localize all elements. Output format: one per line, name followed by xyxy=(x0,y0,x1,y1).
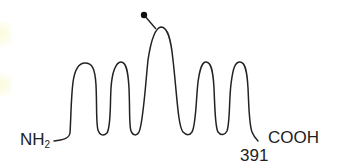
residue-number: 391 xyxy=(240,147,268,164)
polypeptide-chain xyxy=(54,27,258,141)
n-terminus-subscript: 2 xyxy=(45,139,51,150)
c-terminus-label: COOH xyxy=(268,129,319,146)
n-terminus-label: NH2 xyxy=(20,131,50,150)
modification-dot-icon xyxy=(141,12,147,18)
n-terminus-text: NH xyxy=(20,130,45,149)
